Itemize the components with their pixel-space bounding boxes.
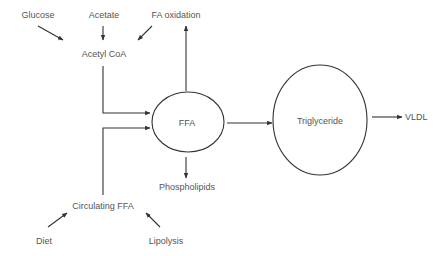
- acetylcoa-to-ffa-arrow: [103, 66, 150, 113]
- diet-to-circulating-ffa-arrow: [48, 213, 67, 227]
- faox-to-acetylcoa-arrow: [138, 26, 152, 40]
- phospholipids-label: Phospholipids: [159, 182, 216, 192]
- lipolysis-to-circulating-ffa-arrow: [146, 213, 160, 227]
- diet-label: Diet: [36, 236, 53, 246]
- glucose-to-acetylcoa-arrow: [38, 26, 63, 40]
- lipolysis-label: Lipolysis: [149, 236, 184, 246]
- glucose-label: Glucose: [21, 10, 54, 20]
- triglyceride-label: Triglyceride: [297, 116, 343, 126]
- acetyl-coa-label: Acetyl CoA: [82, 49, 127, 59]
- ffa-metabolism-diagram: Glucose Acetate FA oxidation Acetyl CoA …: [0, 0, 441, 256]
- ffa-label: FFA: [179, 118, 196, 128]
- circulating-ffa-to-ffa-arrow: [103, 128, 150, 195]
- circulating-ffa-label: Circulating FFA: [72, 201, 134, 211]
- fa-oxidation-label: FA oxidation: [151, 10, 200, 20]
- vldl-label: VLDL: [405, 112, 428, 122]
- acetate-label: Acetate: [89, 10, 120, 20]
